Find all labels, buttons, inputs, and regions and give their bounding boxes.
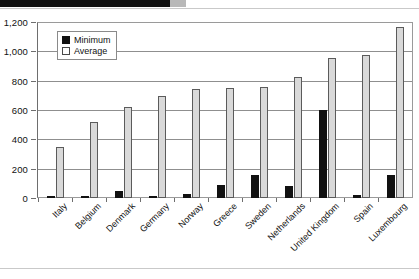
x-axis-labels: ItalyBelgiumDenmarkGermanyNorwayGreeceSw…	[38, 201, 412, 271]
x-axis-tick-label: Greece	[211, 201, 239, 229]
x-axis-tick-label: Italy	[50, 201, 69, 220]
bar-group[interactable]	[310, 23, 344, 198]
bar-minimum[interactable]	[47, 196, 55, 198]
bar-average[interactable]	[362, 55, 370, 198]
bar-group[interactable]	[140, 23, 174, 198]
top-black-decoration-bar	[0, 0, 170, 7]
y-axis-tick-label: 400	[12, 134, 28, 145]
y-axis-tick-mark	[31, 110, 36, 111]
y-axis-tick-label: 600	[12, 105, 28, 116]
legend-item-average: Average	[62, 45, 111, 56]
bar-minimum[interactable]	[251, 175, 259, 198]
bar-average[interactable]	[90, 122, 98, 198]
bar-average[interactable]	[328, 58, 336, 198]
chart-legend: Minimum Average	[57, 31, 117, 60]
legend-item-minimum: Minimum	[62, 34, 111, 45]
y-axis-tick-mark	[31, 198, 36, 199]
bar-minimum[interactable]	[183, 194, 191, 198]
y-axis-tick-mark	[31, 22, 36, 23]
legend-label-minimum: Minimum	[74, 35, 111, 45]
bar-group[interactable]	[276, 23, 310, 198]
y-axis-tick-mark	[31, 81, 36, 82]
bar-group[interactable]	[378, 23, 412, 198]
bar-average[interactable]	[396, 27, 404, 198]
bar-average[interactable]	[192, 89, 200, 198]
bar-average[interactable]	[294, 77, 302, 198]
bar-minimum[interactable]	[81, 196, 89, 198]
x-axis-tick-label: Sweden	[243, 201, 273, 231]
top-gray-decoration-chip	[170, 0, 186, 7]
bar-group[interactable]	[242, 23, 276, 198]
y-axis-tick-label: 1,200	[4, 17, 28, 28]
x-axis-tick-label: Germany	[138, 201, 171, 234]
bar-average[interactable]	[158, 96, 166, 198]
bar-average[interactable]	[226, 88, 234, 198]
x-axis-tick-label: Spain	[352, 201, 375, 224]
bar-minimum[interactable]	[149, 196, 157, 198]
y-axis-tick-label: 200	[12, 163, 28, 174]
y-axis-tick-mark	[31, 139, 36, 140]
bar-minimum[interactable]	[285, 186, 293, 198]
x-axis-tick-label: Belgium	[73, 201, 103, 231]
y-axis-tick-label: 800	[12, 75, 28, 86]
y-axis-tick-mark	[31, 51, 36, 52]
bar-minimum[interactable]	[217, 185, 225, 198]
legend-label-average: Average	[74, 46, 107, 56]
chart-page: 02004006008001,0001,200 Minimum Average …	[0, 0, 419, 279]
bar-average[interactable]	[124, 107, 132, 198]
legend-swatch-minimum-icon	[62, 36, 70, 44]
bar-group[interactable]	[208, 23, 242, 198]
bar-minimum[interactable]	[319, 110, 327, 198]
y-axis-tick-label: 0	[23, 193, 28, 204]
bar-average[interactable]	[56, 147, 64, 198]
bar-group[interactable]	[174, 23, 208, 198]
bar-minimum[interactable]	[115, 191, 123, 198]
y-axis-tick-mark	[31, 169, 36, 170]
top-horizontal-rule	[0, 8, 419, 9]
bar-group[interactable]	[344, 23, 378, 198]
legend-swatch-average-icon	[62, 47, 70, 55]
y-axis-tick-label: 1,000	[4, 46, 28, 57]
bar-minimum[interactable]	[387, 175, 395, 198]
y-axis-labels: 02004006008001,0001,200	[0, 22, 33, 198]
x-axis-tick-label: Denmark	[104, 201, 137, 234]
bar-minimum[interactable]	[353, 195, 361, 198]
bar-average[interactable]	[260, 87, 268, 198]
x-axis-tick-label: Norway	[176, 201, 205, 230]
